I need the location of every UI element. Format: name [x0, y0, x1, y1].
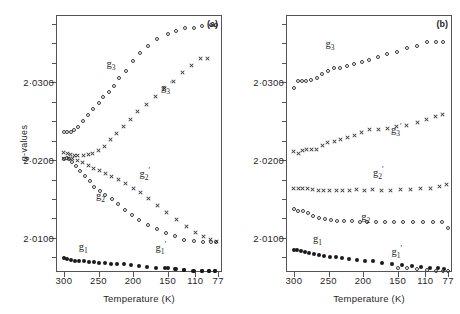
- data-point-g2: [311, 214, 315, 218]
- data-point-g3: [183, 26, 187, 30]
- data-point-g2prime: [321, 188, 326, 193]
- data-point-g1: [92, 260, 96, 264]
- data-point-g2prime: [214, 239, 219, 244]
- data-point-g2prime: [444, 182, 449, 187]
- data-point-g1: [400, 263, 404, 267]
- data-point-g2prime: [103, 171, 108, 176]
- data-point-g3prime: [309, 147, 314, 152]
- data-point-g3prime: [345, 135, 350, 140]
- data-point-g3prime: [90, 151, 95, 156]
- data-point-g3: [395, 50, 399, 54]
- data-point-g1prime: [166, 266, 170, 270]
- data-point-g2prime: [408, 187, 413, 192]
- y-tick-minor: [52, 180, 57, 181]
- data-point-g1: [307, 251, 311, 255]
- data-point-g2: [374, 220, 378, 224]
- data-point-g2prime: [184, 224, 189, 229]
- y-tick-minor: [52, 218, 57, 219]
- data-point-g2prime: [379, 188, 384, 193]
- data-point-g2prime: [398, 187, 403, 192]
- data-point-g3: [101, 95, 105, 99]
- data-point-g3: [174, 29, 178, 33]
- data-point-g1prime: [425, 268, 429, 272]
- data-point-g3: [425, 40, 429, 44]
- data-point-g2: [173, 234, 177, 238]
- data-point-g3: [81, 119, 85, 123]
- data-point-g3: [405, 46, 409, 50]
- data-point-g2: [306, 211, 310, 215]
- data-point-g2: [83, 174, 87, 178]
- data-point-g2: [335, 219, 339, 223]
- y-tick-minor: [52, 257, 57, 258]
- data-point-g2prime: [340, 188, 345, 193]
- data-point-g3: [91, 107, 95, 111]
- y-tick-label: 2·0100: [23, 232, 54, 243]
- data-point-g3: [166, 32, 170, 36]
- plot-frame-a: 300250200150110772·03002·02002·0100g3g3′…: [56, 15, 222, 272]
- data-point-g1: [322, 254, 326, 258]
- y-tick-minor: [282, 102, 287, 103]
- x-tick-label-110: 110: [187, 275, 203, 286]
- data-point-g2prime: [80, 160, 85, 165]
- data-point-g1: [390, 262, 394, 266]
- data-point-g1: [77, 259, 81, 263]
- series-annotation-g1: g1: [313, 232, 322, 246]
- series-annotation-g3prime: g3′: [391, 122, 402, 139]
- data-point-g3: [86, 113, 90, 117]
- y-tick-minor: [52, 102, 57, 103]
- data-point-g3prime: [121, 124, 126, 129]
- data-point-g1: [129, 263, 133, 267]
- data-point-g3: [112, 84, 116, 88]
- data-point-g3: [200, 24, 204, 28]
- y-tick-minor: [282, 141, 287, 142]
- data-point-g1: [371, 259, 375, 263]
- data-point-g2prime: [305, 186, 310, 191]
- data-point-g3: [326, 69, 330, 73]
- data-point-g2prime: [310, 187, 315, 192]
- data-point-g1: [87, 260, 91, 264]
- data-point-g3: [320, 72, 324, 76]
- data-point-g2prime: [370, 187, 375, 192]
- y-tick-minor: [282, 180, 287, 181]
- data-point-g3prime: [108, 137, 113, 142]
- data-point-g1prime: [434, 269, 438, 273]
- data-point-g3: [345, 64, 349, 68]
- x-axis-title-b: Temperature (K): [286, 293, 452, 304]
- data-point-g2: [137, 218, 141, 222]
- data-point-g2: [123, 208, 127, 212]
- data-point-g3prime: [198, 56, 203, 61]
- data-point-g1: [97, 261, 101, 265]
- x-tick-label-150: 150: [159, 275, 176, 286]
- panel-tag-a: (a): [207, 19, 218, 29]
- x-tick-label-150: 150: [389, 275, 406, 286]
- data-point-g3: [72, 128, 76, 132]
- y-tick-minor: [282, 199, 287, 200]
- data-point-g2: [383, 220, 387, 224]
- y-tick-label: 2·0300: [23, 77, 54, 88]
- figure-container: g-values 300250200150110772·03002·02002·…: [0, 0, 460, 314]
- data-point-g2prime: [388, 188, 393, 193]
- data-point-g3prime: [352, 133, 357, 138]
- x-tick-label-300: 300: [56, 275, 73, 286]
- data-point-g3: [415, 44, 419, 48]
- data-point-g2prime: [316, 188, 321, 193]
- data-point-g2: [392, 220, 396, 224]
- y-tick-minor: [52, 43, 57, 44]
- y-tick-minor: [282, 63, 287, 64]
- series-annotation-g3: g3: [106, 58, 115, 72]
- data-point-g1: [347, 257, 351, 261]
- y-tick-label: 2·0200: [253, 155, 284, 166]
- y-tick-minor: [52, 24, 57, 25]
- data-point-g2: [431, 220, 435, 224]
- data-point-g3prime: [144, 102, 149, 107]
- data-point-g1: [154, 266, 158, 270]
- series-annotation-g1prime: g1′: [392, 244, 403, 261]
- data-point-g3prime: [189, 63, 194, 68]
- data-point-g3: [338, 66, 342, 70]
- data-point-g1: [428, 266, 432, 270]
- data-point-g1prime: [396, 266, 400, 270]
- data-point-g1: [145, 265, 149, 269]
- series-annotation-g2: g2: [361, 211, 370, 225]
- data-point-g2: [350, 219, 354, 223]
- data-point-g3: [107, 90, 111, 94]
